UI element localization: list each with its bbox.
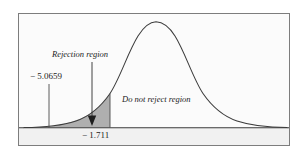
critical-value-label: − 1.711	[82, 131, 109, 140]
do-not-reject-region-label: Do not reject region	[122, 95, 191, 104]
figure-container: Rejection region Do not reject region − …	[0, 0, 306, 159]
distribution-curve	[24, 22, 287, 128]
test-statistic-label: − 5.0659	[30, 72, 62, 81]
rejection-region-label: Rejection region	[52, 50, 108, 59]
